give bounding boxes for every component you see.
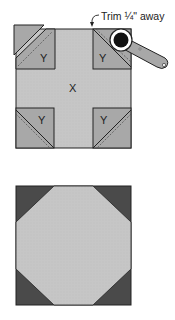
trim-annotation: Trim ¼" away	[101, 10, 165, 22]
label-y-bottom-left: Y	[38, 114, 46, 126]
label-y-bottom-right: Y	[100, 114, 108, 126]
label-y-top-left: Y	[40, 52, 48, 64]
top-block-figure: Y Y Y Y X Trim ¼" away	[14, 10, 168, 148]
bottom-block-figure	[16, 186, 131, 305]
corner-square-bottom-left: Y	[16, 108, 54, 148]
diagram-canvas: Y Y Y Y X Trim ¼" away	[0, 0, 175, 320]
label-x-center: X	[69, 82, 77, 94]
corner-square-bottom-right: Y	[93, 108, 131, 148]
label-y-top-right: Y	[99, 52, 107, 64]
